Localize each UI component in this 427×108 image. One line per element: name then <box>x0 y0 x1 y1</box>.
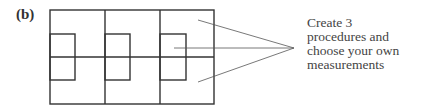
annotation-text: Create 3 procedures and choose your own … <box>307 16 399 72</box>
pointer-line-top <box>198 20 294 48</box>
annotation-line-3: choose your own <box>307 44 399 58</box>
grid <box>50 10 214 104</box>
annotation-line-4: measurements <box>307 58 399 72</box>
pointer-lines <box>174 20 294 82</box>
annotation-line-2: procedures and <box>307 30 399 44</box>
annotation-line-1: Create 3 <box>307 16 399 30</box>
pointer-line-bottom <box>198 48 294 82</box>
